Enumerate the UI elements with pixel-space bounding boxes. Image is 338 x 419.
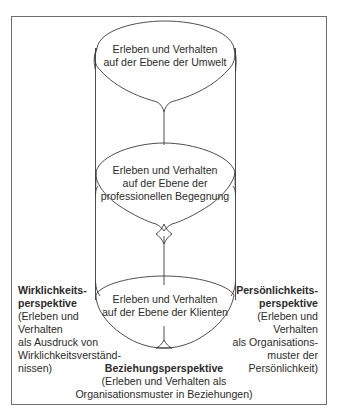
perspective-wirklichkeit-body-1: (Erleben und xyxy=(18,310,118,323)
level-klienten-label: Erleben und Verhalten auf der Ebene der … xyxy=(100,293,230,319)
bottom-triangle xyxy=(156,340,172,348)
perspective-beziehung-body-2: Organisationsmuster in Beziehungen) xyxy=(70,388,258,401)
perspective-wirklichkeit-title-2: perspektive xyxy=(18,297,118,310)
level-umwelt-line-2: auf der Ebene der Umwelt xyxy=(100,56,230,69)
level-umwelt-line-1: Erleben und Verhalten xyxy=(100,43,230,56)
level-klienten-line-1: Erleben und Verhalten xyxy=(100,293,230,306)
perspective-wirklichkeit-body-2: Verhalten xyxy=(18,323,118,336)
level-begegnung-line-3: professionellen Begegnung xyxy=(100,190,230,203)
perspective-wirklichkeit-body-4: Wirklichkeitsverständ- xyxy=(18,349,118,362)
level-klienten-line-2: auf der Ebene der Klienten xyxy=(100,306,230,319)
perspective-wirklichkeit-title-1: Wirklichkeits- xyxy=(18,284,118,297)
level-begegnung-line-2: auf der Ebene der xyxy=(100,177,230,190)
perspective-persoenlichkeit-body-1: (Erleben und xyxy=(218,310,318,323)
perspective-persoenlichkeit-title-2: perspektive xyxy=(218,297,318,310)
lens-begegnung-left-curl xyxy=(96,172,99,196)
perspective-persoenlichkeit-body-4: muster der xyxy=(218,349,318,362)
perspective-beziehung-title: Beziehungsperspektive xyxy=(70,362,258,375)
perspective-persoenlichkeit-body-2: Verhalten xyxy=(218,323,318,336)
level-begegnung-line-1: Erleben und Verhalten xyxy=(100,164,230,177)
perspective-wirklichkeit-body-3: als Ausdruck von xyxy=(18,336,118,349)
level-begegnung-label: Erleben und Verhalten auf der Ebene der … xyxy=(100,164,230,203)
level-umwelt-label: Erleben und Verhalten auf der Ebene der … xyxy=(100,43,230,69)
perspective-persoenlichkeit-body-3: als Organisations- xyxy=(218,336,318,349)
perspective-beziehung-body-1: (Erleben und Verhalten als xyxy=(70,375,258,388)
perspective-beziehung: Beziehungsperspektive (Erleben und Verha… xyxy=(70,362,258,401)
perspective-persoenlichkeit-title-1: Persönlichkeits- xyxy=(218,284,318,297)
